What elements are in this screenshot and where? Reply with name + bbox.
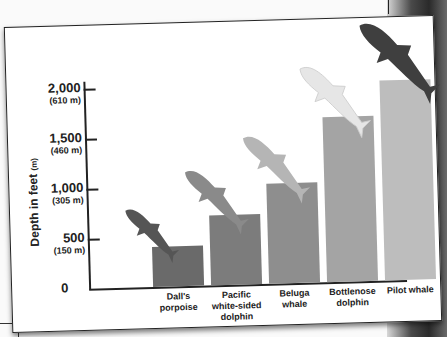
x-category-line: dolphin [201,311,273,324]
bar-pilot-whale [379,79,436,280]
y-tick-feet: 1,000 [51,181,84,196]
background-rule [388,0,389,14]
y-tick-feet: 1,500 [49,131,82,146]
y-tick-feet: 500 [53,231,85,246]
y-tick-zero: 0 [61,280,69,295]
x-category-label: Pilot whale [374,284,446,297]
x-category-line: Pilot whale [374,284,446,297]
y-tick-meters: (305 m) [51,195,84,207]
y-tick-feet: 2,000 [48,81,81,96]
y-tick-meters: (610 m) [48,95,81,107]
y-tick-meters: (150 m) [53,245,85,257]
y-tick-meters: (460 m) [50,145,83,157]
bar-bottlenose-dolphin [322,116,378,282]
animal-silhouette-icon [338,13,430,95]
y-tick-label: 2,000(610 m) [48,81,81,107]
chart-card: Depth in feet (m) 500(150 m)1,000(305 m)… [4,15,442,333]
x-category-line: dolphin [317,296,389,309]
y-tick-label: 1,500(460 m) [49,131,82,157]
y-tick-label: 500(150 m) [53,231,85,257]
y-tick-label: 1,000(305 m) [51,181,84,207]
